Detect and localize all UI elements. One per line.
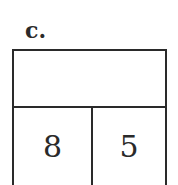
part-cell-left: 8 bbox=[14, 108, 93, 185]
whole-cell bbox=[14, 51, 165, 108]
number-bond-box: 8 5 bbox=[12, 49, 167, 185]
part-cell-right: 5 bbox=[93, 108, 165, 185]
problem-label: c. bbox=[25, 17, 46, 43]
